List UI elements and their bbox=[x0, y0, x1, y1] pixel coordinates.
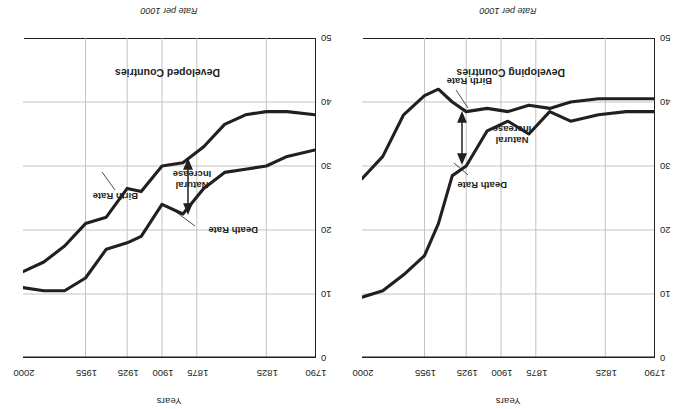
panel-developing-countries: Years 1790 1825 1875 1900 1925 1955 2000… bbox=[339, 0, 677, 409]
x-tick-label: 1900 bbox=[491, 368, 512, 379]
series-label-death-rate-developed: Death Rate bbox=[208, 225, 258, 236]
y-tick-label: 30 bbox=[321, 161, 332, 172]
natural-increase-arrow-developing bbox=[458, 113, 466, 163]
natural-increase-label-developing: Natural Increase bbox=[472, 124, 552, 146]
x-tick-label: 1825 bbox=[257, 368, 278, 379]
x-tick-label: 1875 bbox=[187, 368, 208, 379]
x-tick-label: 1790 bbox=[644, 368, 665, 379]
panel-title-developed: Developed Countries bbox=[115, 67, 220, 79]
leader-line-birth-rate-developed bbox=[102, 172, 115, 190]
x-tick-label: 2000 bbox=[352, 368, 373, 379]
y-axis-ticks-developed: 0 10 20 30 40 50 bbox=[318, 38, 338, 358]
y-tick-label: 20 bbox=[321, 225, 332, 236]
y-tick-label: 20 bbox=[660, 225, 671, 236]
y-tick-label: 40 bbox=[321, 97, 332, 108]
x-axis-title-developed: Years bbox=[0, 396, 338, 407]
y-tick-label: 40 bbox=[660, 97, 671, 108]
y-tick-label: 0 bbox=[321, 353, 326, 364]
y-tick-label: 10 bbox=[660, 289, 671, 300]
natural-increase-line2: Increase bbox=[173, 169, 212, 180]
y-axis-title-developed: Rate per 1000 bbox=[0, 6, 338, 16]
panel-developed-countries: Years 1790 1825 1875 1900 1925 1955 2000… bbox=[0, 0, 338, 409]
plot-area-developed bbox=[24, 38, 316, 358]
y-axis-title-developing: Rate per 1000 bbox=[339, 6, 677, 16]
y-axis-ticks-developing: 0 10 20 30 40 50 bbox=[657, 38, 677, 358]
demographic-transition-figure: Years 1790 1825 1875 1900 1925 1955 2000… bbox=[0, 0, 677, 409]
x-axis-title-developing: Years bbox=[339, 396, 677, 407]
x-tick-label: 1925 bbox=[118, 368, 139, 379]
x-tick-label: 2000 bbox=[13, 368, 34, 379]
x-tick-label: 1900 bbox=[152, 368, 173, 379]
x-tick-label: 1875 bbox=[526, 368, 547, 379]
x-tick-label: 1790 bbox=[305, 368, 326, 379]
x-tick-label: 1825 bbox=[596, 368, 617, 379]
y-tick-label: 50 bbox=[660, 33, 671, 44]
y-tick-label: 50 bbox=[321, 33, 332, 44]
series-line-birth-rate-developed bbox=[23, 112, 315, 272]
natural-increase-line1: Natural bbox=[496, 135, 529, 146]
gridlines-horizontal bbox=[23, 102, 315, 294]
panel-title-developing: Developing Countries bbox=[456, 67, 565, 79]
series-label-death-rate-developing: Death Rate bbox=[457, 180, 507, 191]
x-axis-ticks-developed: 1790 1825 1875 1900 1925 1955 2000 bbox=[24, 361, 316, 379]
y-tick-label: 0 bbox=[660, 353, 665, 364]
leader-line-death-rate-developed bbox=[176, 212, 195, 226]
x-axis-ticks-developing: 1790 1825 1875 1900 1925 1955 2000 bbox=[363, 361, 655, 379]
natural-increase-label-developed: Natural Increase bbox=[152, 169, 232, 191]
y-tick-label: 10 bbox=[321, 289, 332, 300]
plot-svg-developed bbox=[23, 38, 315, 358]
plot-area-developing bbox=[363, 38, 655, 358]
plot-svg-developing bbox=[362, 38, 654, 358]
natural-increase-line2: Increase bbox=[493, 124, 532, 135]
x-tick-label: 1955 bbox=[76, 368, 97, 379]
y-tick-label: 30 bbox=[660, 161, 671, 172]
natural-increase-line1: Natural bbox=[176, 180, 209, 191]
x-tick-label: 1955 bbox=[415, 368, 436, 379]
x-tick-label: 1925 bbox=[457, 368, 478, 379]
series-label-birth-rate-developed: Birth Rate bbox=[93, 191, 138, 202]
